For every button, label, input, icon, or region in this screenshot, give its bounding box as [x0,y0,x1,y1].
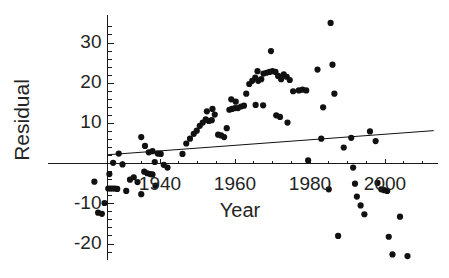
data-point [341,144,347,150]
y-axis-ticks [108,27,114,252]
data-point [331,91,337,97]
data-point [277,114,283,120]
data-point [209,106,215,112]
x-axis-ticks [123,159,423,164]
data-point [350,165,356,171]
data-point [348,135,354,141]
y-tick-label: -20 [50,232,102,254]
data-point [314,66,320,72]
data-point [179,151,185,157]
data-point [138,134,144,140]
data-point [152,159,158,165]
data-point [204,108,210,114]
data-point [91,179,97,185]
x-tick-label: 1940 [125,173,195,195]
data-point [116,150,122,156]
data-point [243,91,249,97]
data-point [209,117,215,123]
data-point [320,104,326,110]
data-point [119,161,125,167]
y-tick-label: -10 [50,192,102,214]
axis-lines [48,15,438,260]
data-point [329,62,335,68]
data-point [373,138,379,144]
data-point [164,165,170,171]
data-point [258,76,264,82]
data-point [106,171,112,177]
data-point [221,134,227,140]
data-point [114,186,120,192]
data-point [303,87,309,93]
y-tick-label: 30 [50,31,102,53]
data-point [253,102,259,108]
data-point [318,136,324,142]
data-point [367,128,373,134]
data-point [284,119,290,125]
data-point [397,214,403,220]
data-point [142,143,148,149]
data-point [268,48,274,54]
data-point [254,68,260,74]
data-point [212,111,218,117]
data-point [158,151,164,157]
y-tick-label: 20 [50,71,102,93]
data-point [110,160,116,166]
data-point [358,202,364,208]
data-point [260,102,266,108]
data-point [361,211,367,217]
data-point [328,20,334,26]
y-axis-label: Residual [10,60,34,180]
data-point [389,251,395,257]
data-point [404,253,410,259]
data-point [101,200,107,206]
data-point [335,233,341,239]
data-point [287,77,293,83]
x-tick-label: 1960 [200,173,270,195]
x-tick-label: 1980 [275,173,345,195]
data-point [241,103,247,109]
data-point [386,234,392,240]
x-axis-label: Year [185,199,295,222]
data-point [290,88,296,94]
x-tick-label: 2000 [350,173,420,195]
data-points [91,20,410,259]
data-point [233,99,239,105]
data-point [305,157,311,163]
y-tick-label: 10 [50,111,102,133]
data-point [224,125,230,131]
